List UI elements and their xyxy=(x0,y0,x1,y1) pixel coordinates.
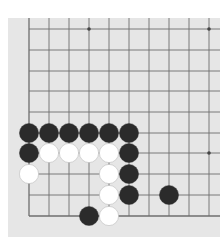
black-stone[interactable] xyxy=(79,123,98,142)
white-stone[interactable] xyxy=(99,143,118,162)
black-stone[interactable] xyxy=(79,206,98,225)
black-stone[interactable] xyxy=(39,123,58,142)
white-stone[interactable] xyxy=(99,185,118,204)
white-stone[interactable] xyxy=(39,143,58,162)
white-stone[interactable] xyxy=(79,143,98,162)
star-point xyxy=(207,151,211,155)
black-stone[interactable] xyxy=(19,143,38,162)
white-stone[interactable] xyxy=(99,206,118,225)
white-stone[interactable] xyxy=(59,143,78,162)
black-stone[interactable] xyxy=(19,123,38,142)
board-grid xyxy=(8,18,220,237)
star-point xyxy=(87,27,91,31)
go-board[interactable] xyxy=(8,18,220,237)
white-stone[interactable] xyxy=(99,164,118,183)
black-stone[interactable] xyxy=(159,185,178,204)
black-stone[interactable] xyxy=(119,123,138,142)
black-stone[interactable] xyxy=(119,185,138,204)
black-stone[interactable] xyxy=(119,164,138,183)
black-stone[interactable] xyxy=(59,123,78,142)
star-point xyxy=(207,27,211,31)
black-stone[interactable] xyxy=(99,123,118,142)
white-stone[interactable] xyxy=(19,164,38,183)
black-stone[interactable] xyxy=(119,143,138,162)
